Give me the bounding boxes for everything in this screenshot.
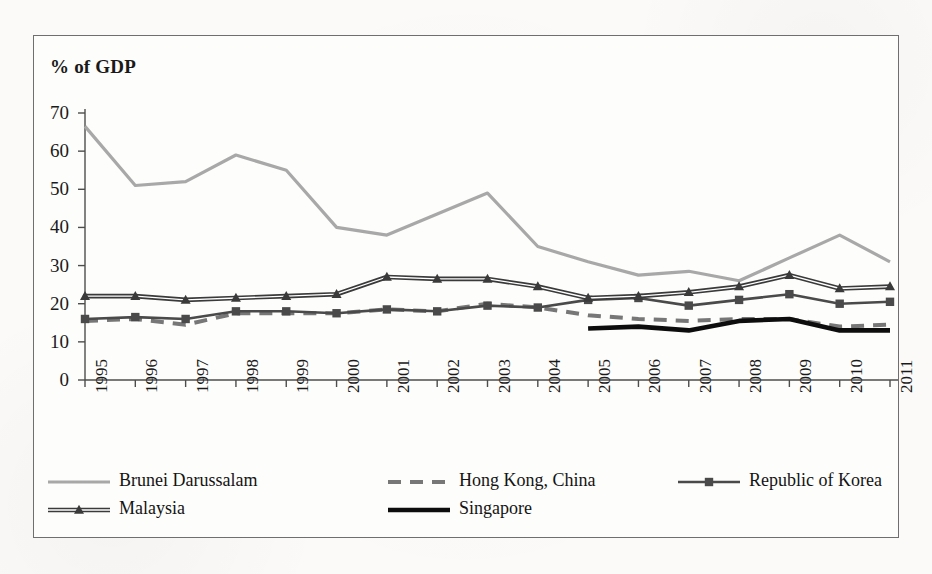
legend-swatch-icon: [678, 473, 740, 487]
x-tick-label: 2007: [696, 359, 716, 393]
legend-label: Hong Kong, China: [459, 471, 596, 489]
y-tick-label: 70: [29, 102, 69, 124]
y-tick-label: 0: [29, 369, 69, 391]
x-tick-label: 2004: [545, 359, 565, 393]
x-tick-label: 1995: [92, 359, 112, 393]
legend-entry[interactable]: Brunei Darussalam: [48, 471, 388, 489]
x-tick-label: 2003: [495, 359, 515, 393]
legend-swatch-icon: [388, 501, 450, 515]
legend-entry[interactable]: Malaysia: [48, 499, 388, 517]
x-tick-label: 1997: [193, 359, 213, 393]
x-tick-label: 2005: [595, 359, 615, 393]
legend-label: Singapore: [459, 499, 532, 517]
x-tick-label: 2011: [897, 360, 917, 393]
legend-entry[interactable]: Hong Kong, China: [388, 471, 678, 489]
y-axis-title: % of GDP: [50, 56, 136, 78]
legend-entry[interactable]: Singapore: [388, 499, 678, 517]
x-tick-label: 1998: [243, 359, 263, 393]
legend-swatch-icon: [48, 473, 110, 487]
legend-label: Brunei Darussalam: [119, 471, 257, 489]
x-tick-label: 2000: [344, 359, 364, 393]
legend-swatch-icon: [48, 501, 110, 515]
y-tick-label: 10: [29, 331, 69, 353]
y-tick-label: 30: [29, 255, 69, 277]
legend-label: Malaysia: [119, 499, 185, 517]
x-tick-label: 2006: [645, 359, 665, 393]
legend-label: Republic of Korea: [749, 471, 882, 489]
y-tick-label: 60: [29, 140, 69, 162]
chart-frame: % of GDP: [33, 35, 899, 538]
x-tick-label: 2008: [746, 359, 766, 393]
y-tick-label: 20: [29, 293, 69, 315]
x-tick-label: 2010: [847, 359, 867, 393]
y-tick-label: 40: [29, 216, 69, 238]
y-tick-label: 50: [29, 178, 69, 200]
x-tick-label: 2001: [394, 359, 414, 393]
legend-entry[interactable]: Republic of Korea: [678, 471, 932, 489]
x-tick-label: 2002: [444, 359, 464, 393]
chart-legend: Brunei DarussalamHong Kong, ChinaRepubli…: [48, 466, 888, 522]
legend-swatch-icon: [388, 473, 450, 487]
x-tick-label: 1999: [293, 359, 313, 393]
x-tick-label: 1996: [142, 359, 162, 393]
x-tick-label: 2009: [796, 359, 816, 393]
